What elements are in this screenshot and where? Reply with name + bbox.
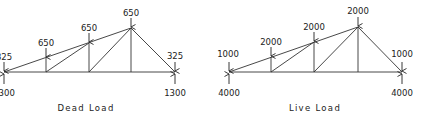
reaction-label: 4000 (218, 88, 240, 98)
load-label: 1000 (217, 49, 239, 59)
load-label: 650 (123, 8, 139, 18)
caption: Live Load (289, 103, 341, 113)
load-label: 650 (38, 38, 54, 48)
truss-diagrams: 325 650 650 650 325 1300 1300 Dead Load … (0, 0, 427, 114)
reaction-label: 4000 (391, 88, 413, 98)
top-chord-right (131, 28, 175, 72)
load-label: 2000 (260, 37, 282, 47)
load-label: 2000 (347, 6, 369, 16)
load-label: 325 (0, 52, 12, 62)
reaction-label: 1300 (164, 88, 186, 98)
load-label: 325 (167, 51, 183, 61)
diagonal-2 (89, 28, 131, 72)
load-label: 1000 (391, 49, 413, 59)
diagonal-2 (314, 27, 358, 72)
live-load-truss: 1000 2000 2000 2000 1000 4000 4000 Live … (217, 6, 413, 113)
load-label: 650 (81, 23, 97, 33)
dead-load-truss: 325 650 650 650 325 1300 1300 Dead Load (0, 8, 186, 113)
caption: Dead Load (57, 103, 114, 113)
top-chord-left (229, 27, 358, 72)
load-label: 2000 (303, 22, 325, 32)
top-chord-left (4, 28, 131, 72)
reaction-label: 1300 (0, 88, 15, 98)
